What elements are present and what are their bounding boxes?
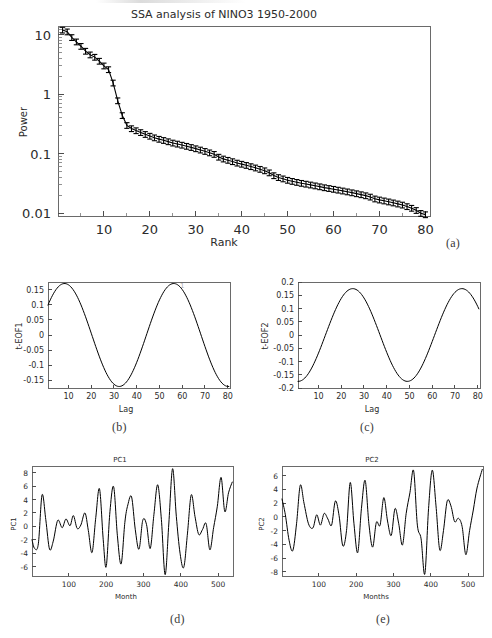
- panel-b-frame: [48, 282, 230, 388]
- scan-artifact: [96, 0, 246, 3]
- svg-text:500: 500: [461, 580, 476, 589]
- svg-text:80: 80: [417, 222, 434, 237]
- panel-a-eigenvalue-spectrum: SSA analysis of NINO3 1950-2000 10203040…: [0, 4, 492, 254]
- svg-text:60: 60: [177, 392, 187, 401]
- panel-e-tick-labels: 1002003004005006420-2-4-6-8: [271, 472, 476, 589]
- svg-text:0: 0: [39, 331, 44, 340]
- svg-text:-4: -4: [271, 540, 279, 549]
- panel-b-x-axis-label: Lag: [119, 405, 133, 414]
- svg-text:-0.05: -0.05: [23, 346, 44, 355]
- panel-e-x-axis-label: Months: [363, 593, 389, 601]
- svg-text:0.1: 0.1: [30, 147, 51, 162]
- svg-text:0.2: 0.2: [281, 278, 294, 287]
- svg-text:0.01: 0.01: [22, 206, 51, 221]
- svg-text:-0.1: -0.1: [28, 361, 44, 370]
- svg-text:30: 30: [359, 392, 369, 401]
- panel-d-x-axis-label: Month: [115, 593, 137, 601]
- svg-text:50: 50: [279, 222, 296, 237]
- panel-d-pc1-timeseries: PC1 10020030040050086420-2-4-6 Month PC1: [2, 452, 246, 604]
- svg-text:-2: -2: [271, 527, 279, 536]
- svg-text:200: 200: [349, 580, 364, 589]
- panel-b-data-series: [48, 284, 229, 387]
- panel-a-x-axis-label: Rank: [210, 236, 238, 249]
- panel-c-data-series: [298, 289, 479, 382]
- panel-d-data-series: [32, 469, 232, 575]
- panel-b-ticks: [48, 290, 228, 388]
- svg-text:-0.05: -0.05: [273, 344, 294, 353]
- panel-a-frame: [58, 26, 430, 216]
- svg-text:10: 10: [34, 28, 51, 43]
- svg-text:0.1: 0.1: [31, 301, 44, 310]
- svg-text:40: 40: [132, 392, 142, 401]
- svg-text:-0.2: -0.2: [278, 384, 294, 393]
- svg-text:30: 30: [188, 222, 205, 237]
- svg-text:300: 300: [136, 580, 151, 589]
- svg-text:0: 0: [273, 513, 278, 522]
- panel-d-tick-labels: 10020030040050086420-2-4-6: [21, 469, 226, 589]
- svg-text:0.1: 0.1: [281, 305, 294, 314]
- svg-text:0.05: 0.05: [26, 316, 44, 325]
- panel-a-data-series: [60, 27, 428, 217]
- panel-e-title: PC2: [365, 456, 379, 464]
- svg-text:-6: -6: [271, 554, 279, 563]
- panel-c-x-axis-label: Lag: [365, 405, 379, 414]
- panel-b-temporal-eof1: 10203040506070800.150.10.050-0.05-0.1-0.…: [2, 268, 246, 418]
- panel-c-y-axis-label: t-EOF2: [261, 322, 270, 349]
- panel-a-ticks: [58, 26, 425, 216]
- caption-d: (d): [170, 612, 185, 627]
- panel-b-y-axis-label: t-EOF1: [15, 322, 24, 349]
- svg-text:20: 20: [142, 222, 159, 237]
- panel-e-pc2-timeseries: PC2 1002003004005006420-2-4-6-8 Months P…: [248, 452, 492, 604]
- svg-text:80: 80: [223, 392, 233, 401]
- svg-text:60: 60: [325, 222, 342, 237]
- svg-text:8: 8: [23, 469, 28, 478]
- svg-text:-0.15: -0.15: [23, 376, 44, 385]
- panel-d-frame: [32, 466, 233, 576]
- svg-text:20: 20: [86, 392, 96, 401]
- svg-text:-0.1: -0.1: [278, 358, 294, 367]
- svg-text:80: 80: [473, 392, 483, 401]
- panel-a-tick-labels: 10203040506070801010.10.01: [22, 28, 434, 237]
- svg-text:50: 50: [154, 392, 164, 401]
- panel-e-data-series: [282, 469, 482, 574]
- svg-text:-8: -8: [271, 568, 279, 577]
- svg-text:0: 0: [289, 331, 294, 340]
- svg-text:10: 10: [63, 392, 73, 401]
- svg-text:20: 20: [336, 392, 346, 401]
- svg-text:4: 4: [273, 485, 278, 494]
- svg-text:10: 10: [96, 222, 113, 237]
- panel-e-frame: [282, 466, 483, 576]
- svg-text:1: 1: [43, 87, 51, 102]
- svg-text:0.15: 0.15: [26, 286, 44, 295]
- panel-c-temporal-eof2: 10203040506070800.20.150.10.050-0.05-0.1…: [248, 268, 492, 418]
- svg-text:400: 400: [174, 580, 189, 589]
- caption-e: (e): [376, 612, 390, 627]
- panel-e-ticks: [282, 476, 468, 576]
- panel-e-y-axis-label: PC2: [258, 517, 266, 531]
- panel-b-tick-labels: 10203040506070800.150.10.050-0.05-0.1-0.…: [23, 286, 233, 401]
- caption-b: (b): [112, 420, 127, 435]
- svg-text:0: 0: [23, 522, 28, 531]
- svg-text:50: 50: [404, 392, 414, 401]
- svg-text:400: 400: [424, 580, 439, 589]
- svg-text:70: 70: [200, 392, 210, 401]
- svg-text:70: 70: [371, 222, 388, 237]
- svg-text:6: 6: [273, 472, 278, 481]
- svg-text:2: 2: [273, 499, 278, 508]
- caption-c: (c): [360, 420, 374, 435]
- svg-text:300: 300: [386, 580, 401, 589]
- caption-a: (a): [446, 236, 460, 251]
- svg-text:6: 6: [23, 482, 28, 491]
- svg-text:-0.15: -0.15: [273, 371, 294, 380]
- svg-text:200: 200: [99, 580, 114, 589]
- svg-text:100: 100: [312, 580, 327, 589]
- svg-text:-6: -6: [21, 563, 29, 572]
- svg-text:40: 40: [382, 392, 392, 401]
- panel-a-y-axis-label: Power: [18, 106, 29, 137]
- svg-text:4: 4: [23, 496, 28, 505]
- svg-text:0.15: 0.15: [276, 291, 294, 300]
- svg-text:100: 100: [62, 580, 77, 589]
- svg-text:500: 500: [211, 580, 226, 589]
- svg-text:-4: -4: [21, 549, 29, 558]
- svg-text:60: 60: [427, 392, 437, 401]
